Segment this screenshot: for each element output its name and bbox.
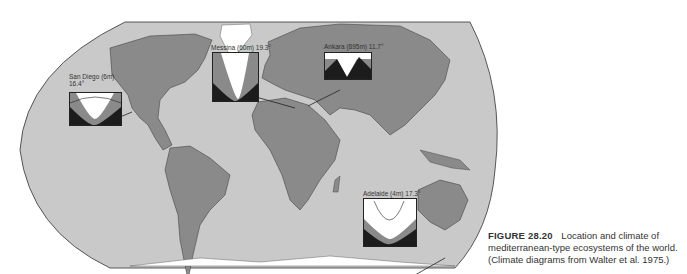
climate-diagram-san-diego [69, 92, 122, 126]
climate-diagram-messina [212, 52, 259, 102]
label-ankara: Ankara (895m) 11.7° [324, 43, 384, 50]
climate-diagram-adelaide [363, 198, 417, 247]
label-san-diego: San Diego (6m)16.4° [69, 73, 115, 87]
climate-diagram-ankara [324, 52, 372, 80]
caption-line-1: Location and climate of [561, 230, 659, 241]
caption-line-2: mediterranean-type ecosystems of the wor… [488, 242, 678, 253]
figure-caption: FIGURE 28.20 Location and climate of med… [488, 230, 687, 266]
caption-line-3: (Climate diagrams from Walter et al. 197… [488, 254, 669, 265]
figure-number: FIGURE 28.20 [488, 230, 553, 241]
label-messina: Messina (60m) 19.3° [211, 44, 271, 51]
label-adelaide: Adelaide (4m) 17.3° [363, 190, 421, 197]
